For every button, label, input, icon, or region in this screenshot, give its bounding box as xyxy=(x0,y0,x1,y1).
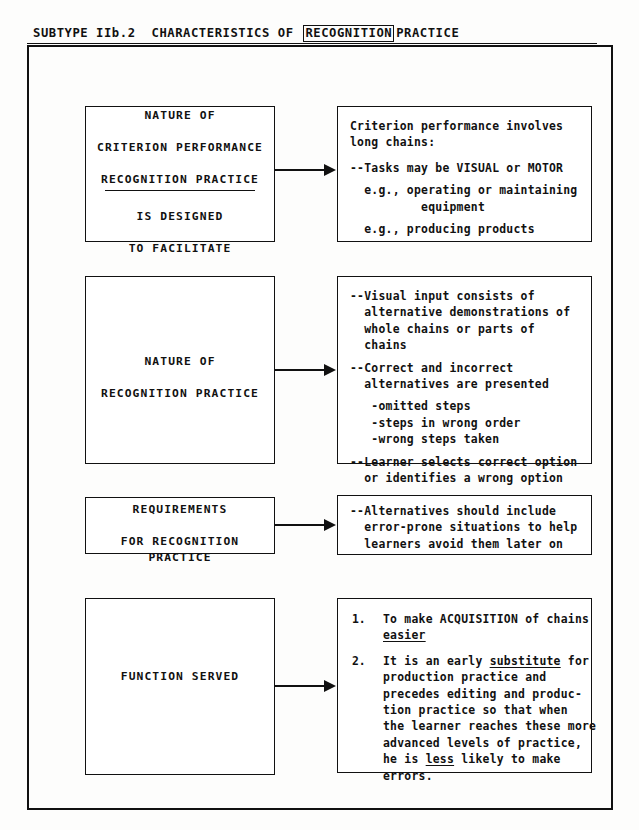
function-item-1-line-1: To make ACQUISITION of chains xyxy=(383,611,589,627)
nrp-detail-line-8: -steps in wrong order xyxy=(350,415,581,431)
cp-detail-line-5: equipment xyxy=(350,199,581,215)
arrow-row-4-head xyxy=(324,680,336,692)
arrow-row-2 xyxy=(275,364,337,376)
fraction-divider-line xyxy=(105,190,255,191)
arrow-row-3-head xyxy=(324,519,336,531)
recognition-boxed-word: RECOGNITION xyxy=(303,25,394,42)
cp-line-4: IS DESIGNED xyxy=(137,210,224,223)
nrp-detail-line-11: or identifies a wrong option xyxy=(350,470,581,486)
req-detail-line-3: learners avoid them later on xyxy=(350,536,581,552)
box-criterion-performance-details: Criterion performance involves long chai… xyxy=(337,106,592,242)
nrp-detail-line-5: --Correct and incorrect xyxy=(350,360,581,376)
cp-line-2: CRITERION PERFORMANCE xyxy=(97,141,263,154)
box-nature-of-recognition-practice-text: NATURE OF RECOGNITION PRACTICE xyxy=(101,338,259,402)
nrp-line-2: RECOGNITION PRACTICE xyxy=(101,387,259,400)
page-title: SUBTYPE IIb.2CHARACTERISTICS OF RECOGNIT… xyxy=(27,22,597,44)
title-before-text: CHARACTERISTICS OF xyxy=(152,25,294,42)
cp-detail-line-2: long chains: xyxy=(350,134,581,150)
nrp-detail-line-7: -omitted steps xyxy=(350,398,581,414)
substitute-underlined-word: substitute xyxy=(490,654,561,668)
arrow-row-2-head xyxy=(324,364,336,376)
box-function-served-text: FUNCTION SERVED xyxy=(121,653,240,685)
function-item-2-line-2: production practice and xyxy=(383,669,596,685)
box-requirements-for-recognition-practice: REQUIREMENTS FOR RECOGNITION PRACTICE xyxy=(85,497,275,554)
box-recognition-practice-details: --Visual input consists of alternative d… xyxy=(337,276,592,464)
function-item-1-line-2: easier xyxy=(383,627,589,643)
spacer xyxy=(350,151,581,160)
req-detail-line-2: error-prone situations to help xyxy=(350,519,581,535)
less-underlined-word: less xyxy=(426,752,454,766)
box-requirements-text: REQUIREMENTS FOR RECOGNITION PRACTICE xyxy=(86,486,274,566)
box-nature-of-criterion-performance-text: NATURE OF CRITERION PERFORMANCE RECOGNIT… xyxy=(97,92,263,257)
arrow-row-1-head xyxy=(324,164,336,176)
function-item-2-line-8: errors. xyxy=(383,768,596,784)
function-item-1-number: 1. xyxy=(352,611,383,644)
cp-detail-line-6: e.g., producing products xyxy=(350,221,581,237)
function-item-2-line-3: precedes editing and produc- xyxy=(383,686,596,702)
nrp-detail-line-9: -wrong steps taken xyxy=(350,431,581,447)
function-item-2-line-6: advanced levels of practice, xyxy=(383,735,596,751)
item2-pre: It is an early xyxy=(383,654,490,668)
item2g-post: likely to make xyxy=(454,752,561,766)
arrow-row-3-shaft xyxy=(275,524,327,526)
function-list-item-2: 2. It is an early substitute for product… xyxy=(352,653,581,784)
req-line-2: FOR RECOGNITION PRACTICE xyxy=(121,535,240,564)
function-item-2-line-7: he is less likely to make xyxy=(383,751,596,767)
function-item-2-line-4: tion practice so that when xyxy=(383,702,596,718)
nrp-detail-line-1: --Visual input consists of xyxy=(350,288,581,304)
arrow-row-4 xyxy=(275,680,337,692)
function-item-2-body: It is an early substitute for production… xyxy=(383,653,596,784)
nrp-detail-line-10: --Learner selects correct option xyxy=(350,454,581,470)
function-list-item-1: 1. To make ACQUISITION of chains easier xyxy=(352,611,581,644)
subtype-label: SUBTYPE IIb.2 xyxy=(33,25,136,42)
box-requirements-details: --Alternatives should include error-pron… xyxy=(337,495,592,555)
title-after-text: PRACTICE xyxy=(396,25,459,42)
nrp-detail-line-4: chains xyxy=(350,337,581,353)
function-item-2-line-5: the learner reaches these more xyxy=(383,718,596,734)
arrow-row-1-shaft xyxy=(275,169,327,171)
cp-line-5: TO FACILITATE xyxy=(129,242,232,255)
req-line-1: REQUIREMENTS xyxy=(133,503,228,516)
box-function-served: FUNCTION SERVED xyxy=(85,598,275,775)
fn-line-1: FUNCTION SERVED xyxy=(121,670,240,683)
title-text: SUBTYPE IIb.2CHARACTERISTICS OF RECOGNIT… xyxy=(27,25,459,42)
cp-line-1: NATURE OF xyxy=(144,109,215,122)
arrow-row-4-shaft xyxy=(275,685,327,687)
item2-post: for xyxy=(561,654,589,668)
function-item-2-line-1: It is an early substitute for xyxy=(383,653,596,669)
nrp-detail-line-2: alternative demonstrations of xyxy=(350,304,581,320)
req-detail-line-1: --Alternatives should include xyxy=(350,503,581,519)
arrow-row-1 xyxy=(275,164,337,176)
box-function-served-details: 1. To make ACQUISITION of chains easier … xyxy=(337,598,592,773)
function-item-1-body: To make ACQUISITION of chains easier xyxy=(383,611,589,644)
cp-line-3: RECOGNITION PRACTICE xyxy=(101,173,259,186)
arrow-row-2-shaft xyxy=(275,369,327,371)
cp-detail-line-3: --Tasks may be VISUAL or MOTOR xyxy=(350,160,581,176)
box-nature-of-criterion-performance: NATURE OF CRITERION PERFORMANCE RECOGNIT… xyxy=(85,106,275,242)
function-item-2-number: 2. xyxy=(352,653,383,784)
easier-underlined-word: easier xyxy=(383,628,426,642)
arrow-row-3 xyxy=(275,519,337,531)
box-nature-of-recognition-practice: NATURE OF RECOGNITION PRACTICE xyxy=(85,276,275,464)
cp-detail-line-4: e.g., operating or maintaining xyxy=(350,182,581,198)
nrp-line-1: NATURE OF xyxy=(144,355,215,368)
nrp-detail-line-3: whole chains or parts of xyxy=(350,321,581,337)
cp-detail-line-1: Criterion performance involves xyxy=(350,118,581,134)
nrp-detail-line-6: alternatives are presented xyxy=(350,376,581,392)
item2g-pre: he is xyxy=(383,752,426,766)
spacer xyxy=(352,644,581,653)
